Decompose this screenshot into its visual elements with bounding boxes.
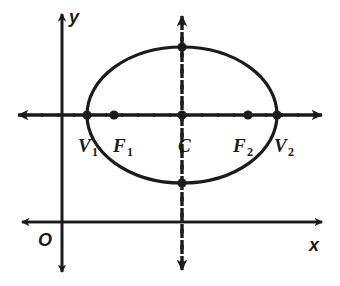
label-center: C [178, 136, 191, 155]
label-f2: F2 [233, 136, 252, 155]
point-center [177, 110, 186, 119]
label-v1: V1 [78, 136, 97, 155]
point-co-vertex-bottom [177, 178, 186, 187]
x-axis-label: x [309, 236, 319, 254]
ellipse-diagram-canvas: V1 F1 C F2 V2 x y O [0, 0, 340, 286]
point-v1 [82, 110, 91, 119]
label-f1: F1 [113, 136, 132, 155]
label-v2: V2 [274, 136, 293, 155]
point-v2 [272, 110, 281, 119]
y-axis-label: y [69, 8, 79, 26]
point-f2 [243, 110, 252, 119]
point-f1 [109, 110, 118, 119]
origin-label: O [38, 231, 52, 249]
point-co-vertex-top [177, 42, 186, 51]
